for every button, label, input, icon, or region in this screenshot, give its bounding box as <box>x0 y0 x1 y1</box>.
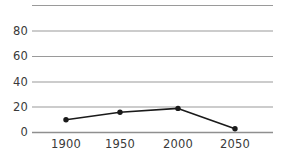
x-tick-label-2050: 2050 <box>215 139 255 151</box>
x-tick-label-1900: 1900 <box>46 139 86 151</box>
x-axis-tick-labels: 1900 1950 2000 2050 <box>0 0 282 159</box>
x-tick-label-2000: 2000 <box>158 139 198 151</box>
x-tick-label-1950: 1950 <box>100 139 140 151</box>
line-chart: 80 60 40 20 0 1900 1950 2000 2050 <box>0 0 282 159</box>
